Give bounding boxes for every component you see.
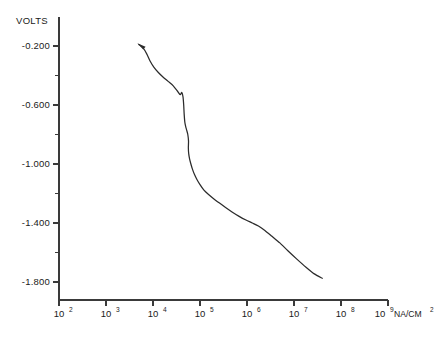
x-axis-tick-exponent: 5	[210, 306, 214, 313]
y-axis-tick-label: -0.200	[22, 40, 50, 51]
x-axis-tick-label: 10	[289, 308, 300, 319]
curve-direction-arrowhead	[137, 43, 145, 49]
svg-text:NA/CM: NA/CM	[394, 309, 422, 319]
x-axis-tick-label: 10	[148, 308, 159, 319]
x-axis-tick-exponent: 8	[351, 306, 355, 313]
y-axis-major-ticks	[53, 46, 59, 282]
x-axis-tick-exponent: 7	[304, 306, 308, 313]
svg-text:2: 2	[430, 306, 434, 313]
x-axis-tick-label: 10	[336, 308, 347, 319]
data-series-group	[137, 43, 322, 278]
y-axis-tick-label: -1.800	[22, 276, 50, 287]
chart-figure: -0.200-0.600-1.000-1.400-1.800 VOLTS 102…	[0, 0, 442, 341]
y-axis-title: VOLTS	[16, 15, 48, 26]
y-axis-tick-label: -1.000	[22, 158, 50, 169]
x-axis: 102103104105106107108109 NA/CM 2	[54, 300, 434, 319]
x-axis-tick-label: 10	[242, 308, 253, 319]
y-axis-tick-label: -1.400	[22, 217, 50, 228]
x-axis-tick-label: 10	[101, 308, 112, 319]
y-axis-tick-labels: -0.200-0.600-1.000-1.400-1.800	[22, 40, 50, 287]
x-axis-tick-exponent: 2	[69, 306, 73, 313]
x-axis-tick-label: 10	[54, 308, 65, 319]
x-axis-ticks	[59, 300, 388, 306]
x-axis-tick-exponent: 4	[163, 306, 167, 313]
x-axis-tick-exponent: 6	[257, 306, 261, 313]
plot-area: -0.200-0.600-1.000-1.400-1.800 VOLTS 102…	[16, 15, 434, 319]
y-axis-tick-label: -0.600	[22, 99, 50, 110]
x-axis-tick-label: 10	[375, 308, 386, 319]
x-axis-tick-labels: 102103104105106107108109	[54, 306, 394, 319]
polarization-curve	[139, 45, 322, 279]
x-axis-tick-exponent: 3	[116, 306, 120, 313]
x-axis-unit-label: NA/CM 2	[394, 306, 434, 319]
y-axis: -0.200-0.600-1.000-1.400-1.800 VOLTS	[16, 15, 59, 300]
x-axis-tick-label: 10	[195, 308, 206, 319]
